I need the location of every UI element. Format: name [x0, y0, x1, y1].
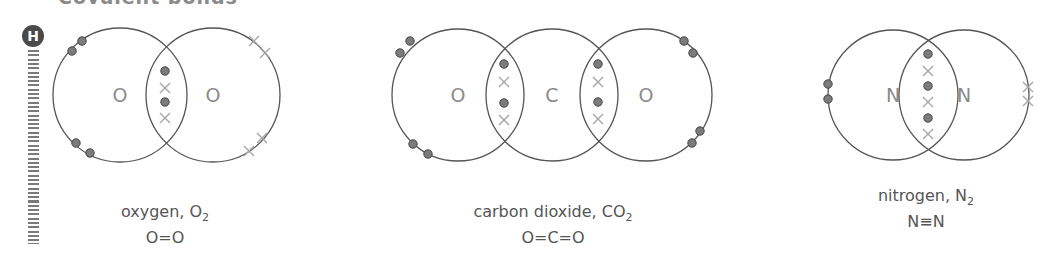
electron-cross-icon — [160, 83, 170, 93]
oxygen-atom-label: O — [206, 84, 221, 106]
electron-dot-icon — [680, 37, 688, 45]
caption-carbon-dioxide-structure: O=C=O — [443, 228, 663, 248]
caption-nitrogen-structure: N≡N — [851, 212, 1001, 232]
oxygen-atom-label: O — [113, 84, 128, 106]
caption-oxygen-structure: O=O — [95, 228, 235, 248]
electron-cross-icon — [499, 77, 509, 87]
electron-cross-icon — [249, 36, 259, 46]
caption-carbon-dioxide-name: carbon dioxide, CO2 — [443, 202, 663, 228]
electron-dot-icon — [824, 80, 832, 88]
electron-dot-icon — [500, 60, 508, 68]
carbon-dioxide-atom-label: O — [451, 84, 466, 106]
carbon-dioxide-atom-label: O — [639, 84, 654, 106]
electron-dot-icon — [688, 139, 696, 147]
electron-dot-icon — [406, 37, 414, 45]
electron-dot-icon — [924, 50, 932, 58]
electron-cross-icon — [923, 97, 933, 107]
electron-dot-icon — [86, 149, 94, 157]
electron-dot-icon — [396, 49, 404, 57]
electron-dot-icon — [689, 49, 697, 57]
caption-carbon-dioxide: carbon dioxide, CO2 O=C=O — [443, 202, 663, 248]
carbon-dioxide-atom-label: C — [545, 84, 558, 106]
caption-nitrogen: nitrogen, N2 N≡N — [851, 186, 1001, 232]
electron-dot-icon — [924, 82, 932, 90]
electron-dot-icon — [696, 127, 704, 135]
electron-cross-icon — [499, 115, 509, 125]
caption-oxygen: oxygen, O2 O=O — [95, 202, 235, 248]
electron-dot-icon — [824, 95, 832, 103]
nitrogen-atom-label: N — [957, 84, 971, 106]
electron-dot-icon — [424, 150, 432, 158]
electron-cross-icon — [260, 48, 270, 58]
caption-oxygen-name: oxygen, O2 — [95, 202, 235, 228]
electron-cross-icon — [593, 77, 603, 87]
electron-cross-icon — [160, 113, 170, 123]
electron-dot-icon — [924, 114, 932, 122]
electron-dot-icon — [594, 60, 602, 68]
electron-dot-icon — [409, 140, 417, 148]
electron-dot-icon — [161, 67, 169, 75]
electron-dot-icon — [500, 99, 508, 107]
electron-dot-icon — [78, 37, 86, 45]
electron-dot-icon — [161, 98, 169, 106]
electron-cross-icon — [244, 146, 254, 156]
electron-dot-icon — [72, 139, 80, 147]
electron-dot-icon — [68, 47, 76, 55]
electron-cross-icon — [923, 66, 933, 76]
electron-dot-icon — [594, 98, 602, 106]
caption-nitrogen-name: nitrogen, N2 — [851, 186, 1001, 212]
electron-cross-icon — [593, 114, 603, 124]
electron-cross-icon — [923, 129, 933, 139]
nitrogen-atom-label: N — [886, 84, 900, 106]
